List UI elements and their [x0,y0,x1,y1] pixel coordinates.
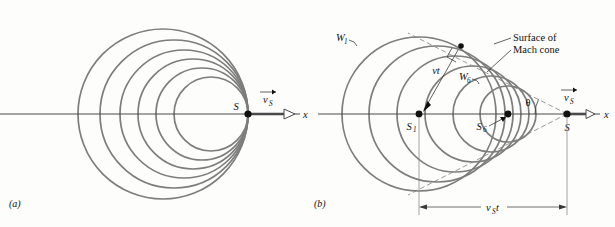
mach-cone-label-line2: Mach cone [513,44,560,55]
panel-b-source-s1-subscript: 1 [413,126,417,134]
panel-b-velocity-label-group: v S [561,88,577,106]
wavefront-w1-subscript: 1 [344,38,348,46]
panel-b-source-s6-subscript: 6 [483,126,487,134]
panel-b-source-s1-label-group: S 1 [406,121,416,134]
panel-a-axis-label: x [302,109,308,120]
wavefront-w6-label-group: W 6 [459,71,479,85]
wave-radius-vt-line [424,50,458,110]
panel-b-vector-overbar-arrowhead [573,88,577,93]
mach-cone-callout-leader [494,38,511,44]
distance-label: v [486,202,491,213]
panel-b-source-s6-label: S [476,121,482,132]
mach-cone-callout-group: Surface of Mach cone [487,32,560,72]
panel-b-source-point [563,110,570,117]
figure-canvas: S v S x (a) [0,0,615,227]
panel-a-label: (a) [9,198,21,210]
shock-wave-figure: S v S x (a) [0,0,615,227]
panel-b-label: (b) [314,198,326,210]
wavefront-w1-leader [349,40,357,46]
panel-a-velocity-subscript: S [269,100,273,108]
panel-b: S 1 S 6 S v S x θ [314,32,609,216]
wavefront-w1-label-group: W 1 [336,32,357,46]
panel-a-velocity-arrowhead [284,109,295,119]
wave-radius-vt-label: vt [432,65,441,76]
wave-radius-vt-group: vt [423,50,458,112]
panel-b-velocity-arrowhead [586,110,595,119]
panel-b-velocity-symbol: v [564,92,569,103]
mach-cone-label-line1: Surface of [513,32,557,43]
wave-radius-vt-arrowhead [423,101,431,112]
panel-a-source-label: S [233,101,239,112]
panel-b-source-s6-point [505,111,512,118]
panel-b-velocity-subscript: S [570,98,574,106]
tangent-point [458,43,464,49]
panel-a-source-point [244,110,251,117]
panel-a-vector-overbar-arrowhead [272,90,276,95]
panel-b-source-s1-label: S [406,121,412,132]
mach-cone-callout-leader-2 [487,50,511,72]
panel-b-source-s1-point [416,111,423,118]
panel-b-axis-label: x [603,109,609,120]
mach-angle-label: θ [525,97,530,108]
panel-a-velocity-symbol: v [263,94,268,105]
panel-a: S v S x (a) [0,29,308,210]
panel-a-velocity-label-group: v S [260,90,276,108]
mach-cone-lower-line [408,114,567,195]
distance-arrowhead-right [559,204,567,209]
wavefront-w6-subscript: 6 [467,77,471,85]
distance-arrowhead-left [419,204,427,209]
